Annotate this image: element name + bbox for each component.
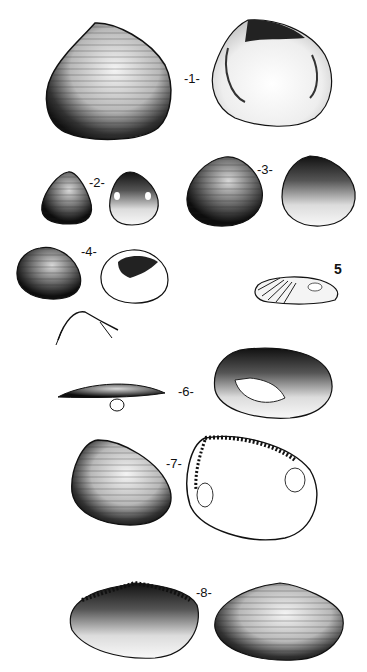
figure-2-label: -2-	[89, 176, 105, 189]
figure-6-interior-shell	[214, 348, 332, 418]
figure-2-exterior-shell	[42, 172, 92, 224]
figure-5-label: 5	[334, 262, 342, 276]
figure-3-interior-shell	[282, 156, 355, 226]
figure-6-side-shell	[58, 384, 165, 411]
figure-7-interior-shell	[187, 437, 317, 540]
figure-1-interior-shell	[212, 20, 331, 127]
figure-6-label: -6-	[178, 385, 194, 398]
figure-3-label: -3-	[257, 163, 273, 176]
figure-4-hinge-detail	[56, 312, 118, 345]
figure-8-exterior-shell	[215, 583, 343, 660]
figure-8-interior-shell	[70, 583, 198, 658]
figure-1-exterior-shell	[46, 23, 170, 140]
figure-8-label: -8-	[196, 586, 212, 599]
figure-2-interior-shell	[110, 172, 159, 225]
shell-plate-illustration	[0, 0, 367, 672]
figure-7-exterior-shell	[72, 440, 171, 525]
figure-7-label: -7-	[166, 457, 182, 470]
figure-5-shell	[255, 277, 338, 304]
figure-3-exterior-shell	[187, 157, 262, 226]
figure-4-interior-shell	[101, 250, 168, 303]
figure-4-label: -4-	[81, 245, 97, 258]
figure-1-label: -1-	[184, 72, 200, 85]
figure-4-exterior-shell	[17, 247, 81, 299]
